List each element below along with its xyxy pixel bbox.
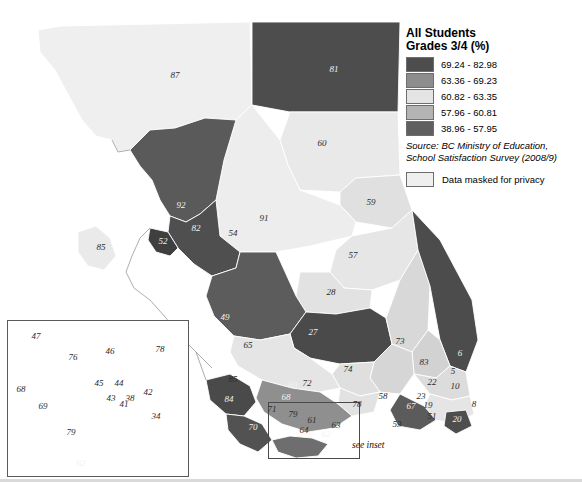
legend-class-label: 60.82 - 63.35 [441, 91, 497, 102]
legend-heading-line2: Grades 3/4 (%) [406, 40, 582, 53]
legend-class-label: 63.36 - 69.23 [441, 75, 497, 86]
map-legend: All Students Grades 3/4 (%) 69.24 - 82.9… [406, 27, 582, 137]
legend-masked-row: Data masked for privacy [406, 172, 544, 187]
map-figure: Students learning about an .pg{stroke:#f… [0, 0, 582, 482]
see-inset-caption: see inset [352, 440, 384, 450]
legend-class-list: 69.24 - 82.9863.36 - 69.2360.82 - 63.355… [406, 57, 582, 136]
legend-class-row: 63.36 - 69.23 [406, 73, 582, 88]
legend-swatch [406, 57, 434, 72]
legend-source-note: Source: BC Ministry of Education, School… [406, 140, 578, 164]
legend-class-row: 69.24 - 82.98 [406, 57, 582, 72]
see-inset-locator-box [268, 402, 360, 459]
legend-swatch [406, 89, 434, 104]
legend-class-label: 57.96 - 60.81 [441, 107, 497, 118]
legend-class-label: 69.24 - 82.98 [441, 59, 497, 70]
legend-swatch [406, 105, 434, 120]
legend-masked-label: Data masked for privacy [442, 174, 544, 185]
legend-swatch [406, 73, 434, 88]
inset-frame [7, 320, 189, 477]
legend-masked-swatch [406, 172, 434, 187]
legend-class-row: 57.96 - 60.81 [406, 105, 582, 120]
legend-class-row: 60.82 - 63.35 [406, 89, 582, 104]
legend-class-label: 38.96 - 57.95 [441, 123, 497, 134]
legend-swatch [406, 121, 434, 136]
legend-class-row: 38.96 - 57.95 [406, 121, 582, 136]
